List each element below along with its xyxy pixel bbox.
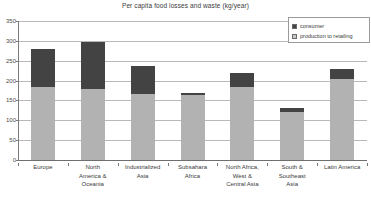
x-axis-category-label-line: America & (68, 172, 118, 181)
gridline (18, 160, 367, 161)
legend-swatch-production-icon (292, 34, 297, 39)
y-axis-tick-label: 300 (1, 38, 16, 44)
x-axis-category-label-line: Africa (168, 172, 218, 181)
y-axis-tick-label: 50 (1, 137, 16, 143)
y-axis-tick-label: 100 (1, 117, 16, 123)
x-axis-category-label: IndustrializedAsia (118, 163, 168, 180)
x-axis-category-label: SubsaharaAfrica (168, 163, 218, 180)
chart-title: Per capita food losses and waste (kg/yea… (0, 2, 371, 9)
x-axis-category-label-line: North (68, 163, 118, 172)
bar-segment-production-to-retailing[interactable] (330, 79, 354, 160)
x-axis-category-label-line: Europe (18, 163, 68, 172)
x-axis-category-label: Europe (18, 163, 68, 172)
bar-stack (131, 66, 155, 161)
bar-stack (230, 73, 254, 160)
bar-group[interactable] (230, 21, 254, 160)
x-axis-category-label: North Africa,West &Central Asia (217, 163, 267, 189)
y-axis-tick-mark (16, 140, 19, 141)
x-axis-category-label-line: West & (217, 172, 267, 181)
legend-item-consumer: consumer (292, 22, 324, 30)
bar-stack (81, 42, 105, 160)
y-axis-line (18, 21, 19, 160)
bar-stack (181, 93, 205, 161)
bar-segment-production-to-retailing[interactable] (81, 89, 105, 160)
y-axis-tick-mark (16, 100, 19, 101)
x-axis-category-label-line: South & (267, 163, 317, 172)
x-axis-category-label-line: Southeast (267, 172, 317, 181)
bar-segment-production-to-retailing[interactable] (131, 94, 155, 160)
legend-item-production-to-retailing: production to retailing (292, 32, 353, 40)
x-axis-category-label-line: Latin America (317, 163, 367, 172)
bar-stack (31, 49, 55, 160)
y-axis-tick-mark (16, 81, 19, 82)
bar-stack (330, 69, 354, 160)
y-axis-tick-labels: 050100150200250300350 (0, 21, 16, 160)
x-axis-category-label: South &SoutheastAsia (267, 163, 317, 189)
legend-label-consumer: consumer (300, 23, 324, 29)
bar-segment-production-to-retailing[interactable] (31, 87, 55, 160)
bar-segment-consumer[interactable] (31, 49, 55, 87)
bar-group[interactable] (131, 21, 155, 160)
bar-segment-production-to-retailing[interactable] (280, 112, 304, 160)
y-axis-tick-label: 150 (1, 97, 16, 103)
y-axis-tick-mark (16, 41, 19, 42)
y-axis-tick-mark (16, 160, 19, 161)
y-axis-tick-mark (16, 120, 19, 121)
bar-segment-consumer[interactable] (230, 73, 254, 86)
bar-segment-consumer[interactable] (81, 42, 105, 89)
x-axis-category-label-line: Asia (118, 172, 168, 181)
bar-group[interactable] (81, 21, 105, 160)
x-axis-category-label-line: Subsahara (168, 163, 218, 172)
x-axis-category-label-line: North Africa, (217, 163, 267, 172)
y-axis-tick-label: 350 (1, 18, 16, 24)
x-axis-tick-labels: EuropeNorthAmerica &OceaniaIndustrialize… (18, 163, 367, 197)
bar-group[interactable] (31, 21, 55, 160)
x-axis-category-label-line: Industrialized (118, 163, 168, 172)
bar-segment-production-to-retailing[interactable] (230, 87, 254, 160)
chart-container: Per capita food losses and waste (kg/yea… (0, 0, 371, 197)
y-axis-tick-mark (16, 21, 19, 22)
y-axis-tick-label: 0 (1, 157, 16, 163)
bar-segment-production-to-retailing[interactable] (181, 95, 205, 160)
bar-segment-consumer[interactable] (131, 66, 155, 95)
x-axis-category-label-line: Oceania (68, 180, 118, 189)
y-axis-tick-label: 200 (1, 78, 16, 84)
bar-group[interactable] (181, 21, 205, 160)
legend-label-production-to-retailing: production to retailing (300, 33, 353, 39)
y-axis-tick-label: 250 (1, 58, 16, 64)
x-axis-tick-mark (367, 163, 368, 166)
x-axis-category-label: NorthAmerica &Oceania (68, 163, 118, 189)
bar-stack (280, 108, 304, 160)
x-axis-category-label-line: Asia (267, 180, 317, 189)
y-axis-tick-mark (16, 61, 19, 62)
x-axis-category-label: Latin America (317, 163, 367, 172)
x-axis-category-label-line: Central Asia (217, 180, 267, 189)
legend-swatch-consumer-icon (292, 24, 297, 29)
bar-segment-consumer[interactable] (330, 69, 354, 79)
chart-legend: consumer production to retailing (288, 17, 370, 43)
